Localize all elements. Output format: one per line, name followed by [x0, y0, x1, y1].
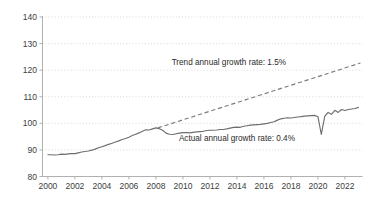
series-line-actual	[48, 107, 359, 155]
x-tick-label-2002: 2002	[65, 181, 84, 191]
actual-series-group	[48, 107, 359, 155]
x-tick-label-2010: 2010	[173, 181, 192, 191]
x-tick-label-2006: 2006	[119, 181, 138, 191]
y-tick-labels-group: 8090100110120130140	[23, 12, 37, 182]
x-tick-label-2016: 2016	[254, 181, 273, 191]
y-tick-label-80: 80	[28, 172, 38, 182]
y-tick-label-100: 100	[23, 118, 37, 128]
x-tick-label-2014: 2014	[227, 181, 246, 191]
chart-svg: 8090100110120130140 20002002200420062008…	[0, 0, 375, 201]
x-tick-label-2018: 2018	[281, 181, 300, 191]
actual-growth-annotation: Actual annual growth rate: 0.4%	[179, 134, 295, 143]
series-line-trend	[158, 63, 361, 128]
x-tick-label-2000: 2000	[38, 181, 57, 191]
trend-series-group	[158, 63, 361, 128]
x-tick-label-2022: 2022	[335, 181, 354, 191]
trend-growth-annotation: Trend annual growth rate: 1.5%	[172, 58, 286, 67]
chart-container: 8090100110120130140 20002002200420062008…	[0, 0, 375, 201]
axis-group	[40, 16, 363, 180]
x-tick-label-2012: 2012	[200, 181, 219, 191]
x-tick-label-2004: 2004	[92, 181, 111, 191]
x-tick-labels-group: 2000200220042006200820102012201420162018…	[38, 181, 354, 191]
y-tick-label-130: 130	[23, 39, 37, 49]
x-tick-label-2020: 2020	[308, 181, 327, 191]
x-tick-label-2008: 2008	[146, 181, 165, 191]
gridlines-group	[43, 17, 363, 150]
y-tick-label-140: 140	[23, 12, 37, 22]
y-tick-label-120: 120	[23, 65, 37, 75]
y-tick-label-90: 90	[28, 145, 38, 155]
y-tick-label-110: 110	[23, 92, 37, 102]
annotations-group: Trend annual growth rate: 1.5%Actual ann…	[172, 58, 295, 143]
